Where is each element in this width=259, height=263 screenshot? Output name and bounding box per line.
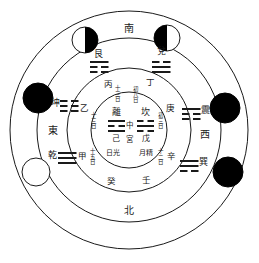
stem-day-xin: 十二日 xyxy=(157,148,163,174)
center-label-ji: 己 xyxy=(112,135,120,143)
ring-middle xyxy=(37,38,221,222)
stem-day-bing: 十三日 xyxy=(114,85,120,111)
direction-east: 東 xyxy=(48,126,58,136)
trigram-label-gen: 艮 xyxy=(94,50,103,59)
moon-right-upper xyxy=(210,93,240,123)
stem-label-ding: 丁 xyxy=(146,78,155,87)
stem-day-ding: 初八日 xyxy=(132,86,138,112)
stem-label-jia: 甲 xyxy=(78,152,87,161)
trigram-label-zhen: 震 xyxy=(201,106,210,115)
stem-day-jia: 十五日 xyxy=(89,148,95,174)
center-label-wu: 戊 xyxy=(142,135,150,143)
stem-label-yi: 乙 xyxy=(80,104,89,113)
trigram-label-qian: 乾 xyxy=(48,151,57,160)
trigram-label-dui: 兌 xyxy=(157,47,166,56)
stem-label-geng: 庚 xyxy=(166,104,175,113)
stem-label-bing: 丙 xyxy=(104,80,113,89)
direction-south: 南 xyxy=(124,24,134,34)
lunar-bagua-diagram: 南 北 東 西 艮 兌 坤 乾 震 巽 離 坎 中 宮 己 戊 日光 月精 丙 … xyxy=(0,0,259,263)
center-label-moonessence: 月精 xyxy=(139,150,153,157)
trigram-label-xun: 巽 xyxy=(199,158,208,167)
ring-core xyxy=(91,92,167,168)
stem-day-geng: 初三日 xyxy=(157,112,163,138)
direction-west: 西 xyxy=(200,130,210,140)
stem-label-ren: 壬 xyxy=(142,176,151,185)
moon-right-lower xyxy=(213,157,243,187)
center-label-sunlight: 日光 xyxy=(106,150,120,157)
center-label-gong: 宮 xyxy=(126,136,133,144)
moon-left-upper xyxy=(23,83,53,113)
center-label-zhong: 中 xyxy=(126,122,133,130)
direction-north: 北 xyxy=(124,206,134,216)
center-label-kan: 坎 xyxy=(141,108,150,117)
diagram-canvas xyxy=(0,0,259,263)
trigram-bars-zhen xyxy=(182,108,201,120)
trigram-label-kun: 坤 xyxy=(51,99,60,108)
trigram-bars-kan xyxy=(137,120,154,132)
trigram-bars-li xyxy=(108,120,125,132)
stem-day-yi: 十三日 xyxy=(90,112,96,138)
trigram-bars-dui xyxy=(152,61,171,73)
stem-label-gui: 癸 xyxy=(107,177,116,186)
trigram-bars-qian xyxy=(58,152,77,164)
stem-label-xin: 辛 xyxy=(167,152,176,161)
trigram-bars-kun xyxy=(60,100,79,112)
trigram-bars-xun xyxy=(180,160,199,172)
trigram-bars-gen xyxy=(90,61,109,73)
ring-inner xyxy=(67,68,191,192)
moon-left-lower xyxy=(22,158,50,186)
